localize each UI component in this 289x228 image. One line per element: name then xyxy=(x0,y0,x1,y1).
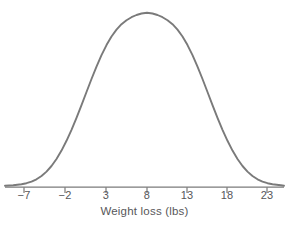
x-tick-label-5: 18 xyxy=(207,189,247,201)
x-tick-label-6: 23 xyxy=(247,189,287,201)
x-tick-label-2: 3 xyxy=(86,189,126,201)
x-tick-label-3: 8 xyxy=(127,189,167,201)
x-tick-label-1: −2 xyxy=(45,189,85,201)
normal-curve-figure: −7 −2 3 8 13 18 23 Weight loss (lbs) xyxy=(0,0,289,228)
x-tick-label-0: −7 xyxy=(4,189,44,201)
bell-curve-path xyxy=(5,13,284,186)
x-axis-title: Weight loss (lbs) xyxy=(0,205,289,217)
x-tick-label-4: 13 xyxy=(167,189,207,201)
